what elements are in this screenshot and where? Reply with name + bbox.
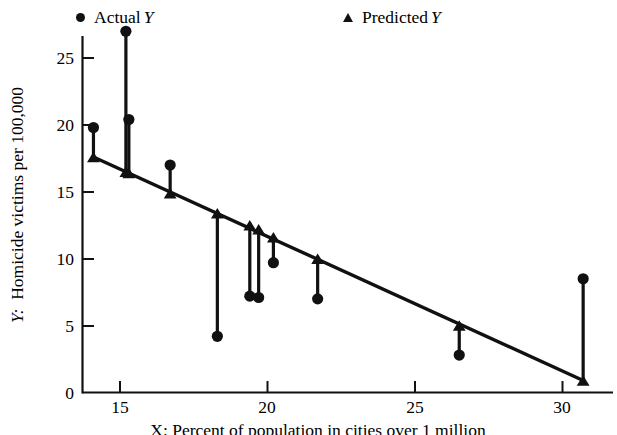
- x-axis-caption: X: Percent of population in cities over …: [108, 420, 528, 435]
- actual-data-point: [123, 114, 134, 125]
- x-tick-label: 25: [395, 398, 435, 416]
- y-tick-label: 5: [44, 317, 74, 335]
- scatter-plot-figure: ActualY PredictedY Y: Homicide victims p…: [0, 0, 617, 435]
- x-tick-label: 30: [542, 398, 582, 416]
- actual-data-point: [268, 257, 279, 268]
- actual-data-point: [88, 122, 99, 133]
- actual-data-point: [212, 331, 223, 342]
- axis-lines: [83, 36, 614, 394]
- predicted-data-point: [87, 152, 100, 163]
- plot-marks: [87, 26, 590, 386]
- actual-data-point: [253, 292, 264, 303]
- actual-data-point: [578, 273, 589, 284]
- y-tick-label: 10: [44, 250, 74, 268]
- y-tick-label: 25: [44, 49, 74, 67]
- y-tick-label: 15: [44, 183, 74, 201]
- regression-line: [93, 157, 583, 380]
- x-tick-label: 20: [247, 398, 287, 416]
- y-tick-label: 0: [44, 384, 74, 402]
- x-axis-ticks: [120, 381, 563, 393]
- actual-data-point: [312, 293, 323, 304]
- actual-data-point: [454, 349, 465, 360]
- actual-data-point: [120, 26, 131, 37]
- y-axis-ticks: [83, 58, 95, 326]
- x-tick-label: 15: [100, 398, 140, 416]
- plot-canvas: [0, 0, 617, 435]
- actual-data-point: [165, 159, 176, 170]
- y-tick-label: 20: [44, 116, 74, 134]
